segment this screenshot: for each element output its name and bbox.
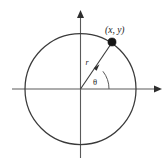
radius-label: r <box>85 58 89 67</box>
angle-label: θ <box>93 77 97 87</box>
angle-arc <box>103 71 109 89</box>
diagram-canvas: (x, y) r θ <box>0 0 168 163</box>
point-marker <box>108 38 116 46</box>
polar-coordinate-diagram: (x, y) r θ <box>0 0 168 163</box>
x-axis-arrowhead-icon <box>154 85 162 92</box>
y-axis-arrowhead-icon <box>77 10 84 18</box>
point-label: (x, y) <box>105 25 125 36</box>
